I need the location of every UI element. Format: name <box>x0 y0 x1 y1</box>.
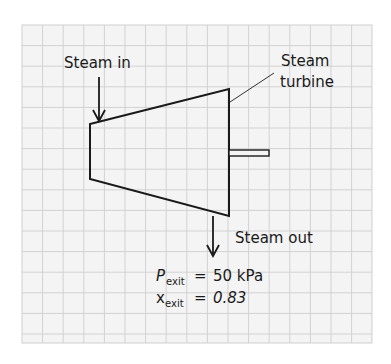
pressure-subscript: exit <box>166 276 185 287</box>
turbine-shaft <box>229 150 269 156</box>
pressure-symbol: P <box>156 267 166 285</box>
pressure-equals: = <box>194 267 207 285</box>
turbine-label-line1: Steam <box>281 52 329 70</box>
quality-symbol: x <box>156 289 165 307</box>
pressure-value: 50 kPa <box>213 267 263 285</box>
steam-out-label: Steam out <box>235 229 313 247</box>
diagram-canvas: Steam in Steam turbine Steam out P exit … <box>0 0 391 364</box>
quality-equals: = <box>194 289 207 307</box>
quality-value: 0.83 <box>213 289 246 307</box>
turbine-label-line2: turbine <box>280 73 334 91</box>
quality-subscript: exit <box>165 298 184 309</box>
steam-in-label: Steam in <box>64 54 131 72</box>
